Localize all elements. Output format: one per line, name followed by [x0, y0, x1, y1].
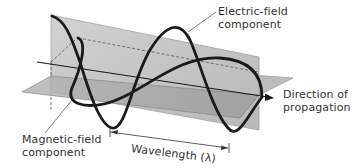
electric-field-label-line1: Electric-field [218, 5, 288, 18]
magnetic-field-label: Magnetic-field component [22, 133, 101, 159]
electric-field-label-line2: component [218, 18, 288, 31]
arrow-head-icon [265, 94, 274, 102]
magnetic-field-label-line2: component [22, 146, 101, 159]
wavelength-arrow-right-icon [221, 145, 228, 150]
direction-label-line1: Direction of [283, 88, 351, 101]
magnetic-leader-line [45, 100, 72, 133]
magnetic-field-label-line1: Magnetic-field [22, 133, 101, 146]
electric-leader-line [188, 12, 216, 32]
electric-field-label: Electric-field component [218, 5, 288, 31]
direction-label-line2: propagation [283, 101, 351, 114]
direction-label: Direction of propagation [283, 88, 351, 114]
wavelength-arrow-left-icon [111, 130, 118, 135]
